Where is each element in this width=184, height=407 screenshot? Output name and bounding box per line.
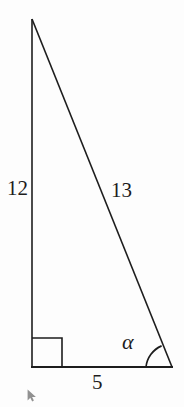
triangle-figure — [0, 0, 184, 407]
right-angle-square-icon — [32, 338, 62, 367]
vertical-leg-label: 12 — [7, 178, 28, 199]
mouse-pointer-arrow-icon — [27, 389, 37, 402]
base-leg-label: 5 — [92, 372, 103, 393]
angle-alpha-label: α — [122, 331, 134, 353]
angle-arc-icon — [146, 346, 162, 367]
hypotenuse-label: 13 — [111, 180, 132, 201]
hypotenuse-line — [32, 19, 172, 367]
triangle-diagram: 12 13 5 α — [0, 0, 184, 407]
